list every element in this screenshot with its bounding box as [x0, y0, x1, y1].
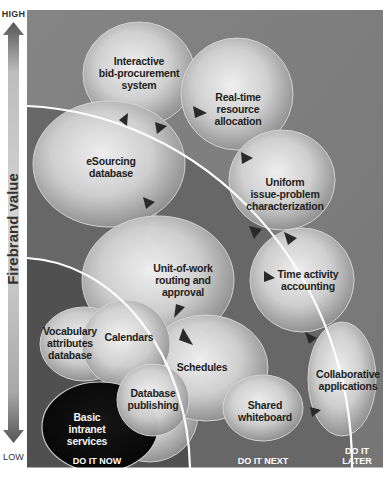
- bubble-text-line: Time activity: [278, 268, 339, 280]
- zone-label-do-it-now: DO IT NOW: [73, 456, 122, 466]
- bubble-schedules: Schedules: [177, 361, 228, 373]
- bubble-text-line: approval: [153, 286, 212, 298]
- bubble-text-line: intranet: [67, 423, 107, 435]
- bubble-text-line: publishing: [127, 399, 178, 411]
- zone-label-do-it-next: DO IT NEXT: [238, 456, 289, 466]
- bubble-text-line: Unit-of-work: [153, 262, 212, 274]
- bubble-text-line: services: [67, 435, 107, 447]
- bubble-real-time-resource-allocation: Real-time resource allocation: [214, 91, 261, 127]
- bubble-text-line: applications: [316, 380, 380, 392]
- bubble-text-line: attributes: [43, 337, 97, 349]
- bubble-text-line: Collaborative: [316, 368, 380, 380]
- bubble-text-line: database: [43, 349, 97, 361]
- bubble-text-line: routing and: [153, 274, 212, 286]
- zone-label-line: DO IT: [342, 446, 371, 456]
- bubble-text-line: Basic: [67, 411, 107, 423]
- bubble-basic-intranet-services: Basic intranet services: [67, 411, 107, 447]
- bubble-text-line: allocation: [214, 115, 261, 127]
- bubble-text-line: Shared: [238, 399, 292, 411]
- bubble-collaborative-applications: Collaborative applications: [316, 368, 380, 392]
- bubble-unit-of-work-routing-and-approval: Unit-of-work routing and approval: [153, 262, 212, 298]
- bubble-text-line: issue-problem: [246, 188, 323, 200]
- bubble-text-line: resource: [214, 103, 261, 115]
- axis-low-label: LOW: [0, 452, 27, 462]
- bubble-interactive-bid-procurement-system: Interactive bid-procurement system: [99, 55, 179, 91]
- bubble-text-line: accounting: [278, 280, 339, 292]
- bubble-text-line: characterization: [246, 200, 323, 212]
- bubble-calendars: Calendars: [105, 331, 154, 343]
- zone-label-do-it-later: DO IT LATER: [342, 446, 371, 466]
- bubble-text-line: Vocabulary: [43, 325, 97, 337]
- footer-credit-area: [0, 470, 385, 481]
- bubble-esourcing-database: eSourcing database: [86, 155, 136, 179]
- bubble-database-publishing: Database publishing: [127, 387, 178, 411]
- bubble-shared-whiteboard: Shared whiteboard: [238, 399, 292, 423]
- bubble-text-line: system: [99, 79, 179, 91]
- diagram-canvas: [27, 10, 383, 468]
- firebrand-value-axis: HIGH Firebrand value LOW: [0, 0, 27, 481]
- bubble-text-line: Real-time: [214, 91, 261, 103]
- bubble-time-activity-accounting: Time activity accounting: [278, 268, 339, 292]
- bubble-text-line: whiteboard: [238, 411, 292, 423]
- bubble-text-line: Schedules: [177, 361, 228, 373]
- bubble-text-line: eSourcing: [86, 155, 136, 167]
- zone-label-line: LATER: [342, 456, 371, 466]
- bubble-vocabulary-attributes-database: Vocabulary attributes database: [43, 325, 97, 361]
- bubble-text-line: database: [86, 167, 136, 179]
- bubble-text-line: Calendars: [105, 331, 154, 343]
- bubble-text-line: bid-procurement: [99, 67, 179, 79]
- axis-title: Firebrand value: [2, 146, 24, 312]
- bubble-text-line: Uniform: [246, 176, 323, 188]
- bubble-uniform-issue-problem-characterization: Uniform issue-problem characterization: [246, 176, 323, 212]
- bubble-text-line: Database: [127, 387, 178, 399]
- bubble-text-line: Interactive: [99, 55, 179, 67]
- priority-diagram: Interactive bid-procurement system Real-…: [27, 10, 383, 468]
